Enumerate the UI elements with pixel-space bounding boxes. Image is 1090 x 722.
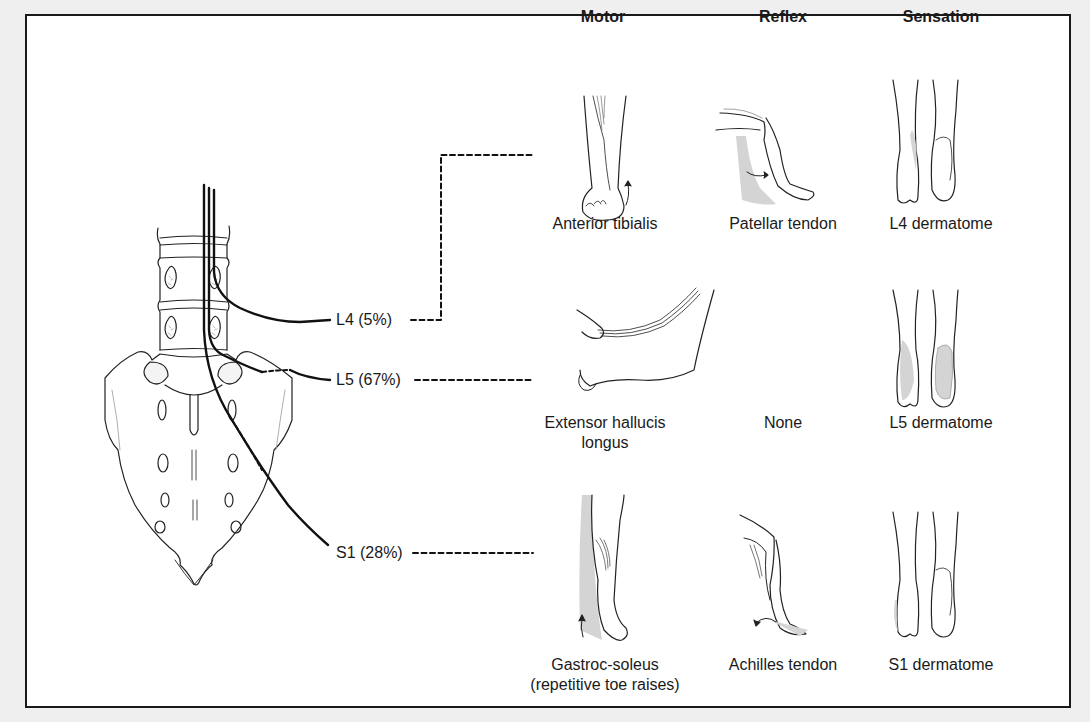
caption-s1-reflex: Achilles tendon xyxy=(693,655,873,675)
column-header-sensation: Sensation xyxy=(871,8,1011,26)
caption-l4-motor-line1: Anterior tibialis xyxy=(553,215,658,232)
gastroc-soleus-icon xyxy=(579,495,627,640)
caption-l5-motor: Extensor hallucis longus xyxy=(515,413,695,453)
caption-l5-reflex: None xyxy=(693,413,873,433)
caption-s1-motor-line2: (repetitive toe raises) xyxy=(515,675,695,695)
caption-l4-sensation: L4 dermatome xyxy=(851,214,1031,234)
anatomy-illustration xyxy=(0,0,1090,722)
achilles-reflex-icon xyxy=(740,515,808,636)
column-header-reflex: Reflex xyxy=(713,8,853,26)
caption-l5-sensation: L5 dermatome xyxy=(851,413,1031,433)
root-label-s1: S1 (28%) xyxy=(336,544,403,562)
caption-s1-motor: Gastroc-soleus (repetitive toe raises) xyxy=(515,655,695,695)
caption-l4-reflex: Patellar tendon xyxy=(693,214,873,234)
l5-dermatome-icon xyxy=(893,290,958,407)
caption-l5-motor-line1: Extensor hallucis xyxy=(515,413,695,433)
root-label-l5: L5 (67%) xyxy=(336,371,401,389)
extensor-hallucis-longus-icon xyxy=(577,288,714,390)
caption-s1-sensation: S1 dermatome xyxy=(851,655,1031,675)
patellar-reflex-icon xyxy=(716,109,814,205)
root-label-l4: L4 (5%) xyxy=(336,311,392,329)
sacrum-icon xyxy=(105,352,292,585)
caption-l4-motor: Anterior tibialis xyxy=(515,214,695,234)
caption-s1-motor-line1: Gastroc-soleus xyxy=(515,655,695,675)
s1-dermatome-icon xyxy=(893,512,958,637)
anterior-tibialis-icon xyxy=(582,96,631,220)
column-header-motor: Motor xyxy=(533,8,673,26)
caption-l5-motor-line2: longus xyxy=(515,433,695,453)
l4-dermatome-icon xyxy=(893,80,958,203)
